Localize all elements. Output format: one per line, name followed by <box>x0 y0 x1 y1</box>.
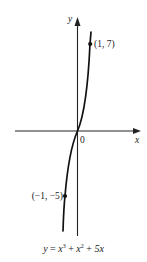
point-neg1-neg5 <box>63 194 67 198</box>
y-axis-arrow-icon <box>75 17 81 26</box>
equation-caption: y = x3 + x2 + 5x <box>0 243 147 254</box>
x-axis-arrow-icon <box>133 128 141 134</box>
caption-plus-2: + <box>84 243 95 254</box>
cubic-function-graph: y x 0 (1, 7) (−1, −5) <box>0 0 147 262</box>
caption-term-5x: 5x <box>94 243 103 254</box>
x-axis-label: x <box>134 135 140 145</box>
caption-plus-1: + <box>66 243 77 254</box>
caption-equals: = <box>48 243 59 254</box>
y-axis-label: y <box>67 14 73 24</box>
point-label-neg1-neg5: (−1, −5) <box>32 191 63 202</box>
point-1-7 <box>88 42 92 46</box>
origin-label: 0 <box>80 135 85 145</box>
point-label-1-7: (1, 7) <box>94 39 115 50</box>
